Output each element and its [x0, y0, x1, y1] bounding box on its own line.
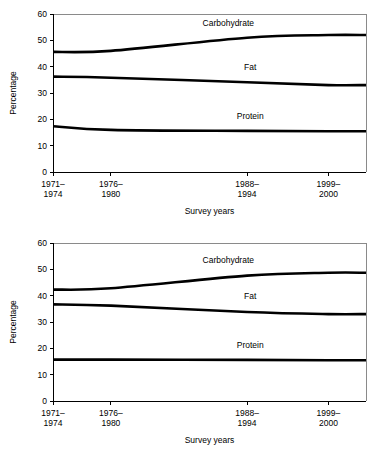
y-tick-label: 50 [38, 35, 48, 45]
x-tick-label: 1999– [317, 408, 341, 418]
x-tick-label: 2000 [319, 189, 338, 199]
x-tick-label: 1971– [41, 179, 65, 189]
series-line-protein [53, 360, 366, 361]
x-tick-label: 1980 [101, 418, 120, 428]
y-tick-label: 30 [38, 88, 48, 98]
x-tick-label: 1974 [44, 189, 63, 199]
x-tick-label: 1976– [99, 408, 123, 418]
y-tick-label: 20 [38, 343, 48, 353]
x-axis-title: Survey years [185, 435, 235, 445]
series-label-carbohydrate: Carbohydrate [203, 18, 255, 28]
x-tick-label: 1974 [44, 418, 63, 428]
series-line-fat [53, 77, 366, 86]
y-tick-label: 10 [38, 370, 48, 380]
y-tick-label: 50 [38, 264, 48, 274]
x-tick-label: 1994 [238, 418, 257, 428]
x-axis-title: Survey years [185, 206, 235, 216]
series-line-fat [53, 304, 366, 314]
series-line-carbohydrate [53, 273, 366, 290]
y-axis-title: Percentage [8, 71, 18, 115]
series-line-protein [53, 126, 366, 131]
y-tick-label: 20 [38, 114, 48, 124]
x-tick-label: 1988– [235, 179, 259, 189]
x-tick-label: 1994 [238, 189, 257, 199]
y-tick-label: 30 [38, 317, 48, 327]
series-label-protein: Protein [237, 340, 264, 350]
series-label-protein: Protein [237, 111, 264, 121]
series-label-carbohydrate: Carbohydrate [203, 255, 255, 265]
x-tick-label: 1971– [41, 408, 65, 418]
series-label-fat: Fat [244, 291, 257, 301]
y-tick-label: 10 [38, 141, 48, 151]
series-label-fat: Fat [244, 62, 257, 72]
chart-panel-top: 0102030405060Percentage1971–19741976–198… [0, 0, 381, 229]
y-tick-label: 60 [38, 9, 48, 19]
x-tick-label: 1980 [101, 189, 120, 199]
y-tick-label: 0 [42, 396, 47, 406]
y-axis-title: Percentage [8, 300, 18, 344]
plot-frame [53, 14, 366, 172]
y-tick-label: 40 [38, 291, 48, 301]
x-tick-label: 1976– [99, 179, 123, 189]
x-tick-label: 1999– [317, 179, 341, 189]
x-tick-label: 2000 [319, 418, 338, 428]
line-chart-bottom: 0102030405060Percentage1971–19741976–198… [0, 229, 381, 459]
series-line-carbohydrate [53, 35, 366, 52]
y-tick-label: 0 [42, 167, 47, 177]
line-chart-top: 0102030405060Percentage1971–19741976–198… [0, 0, 381, 229]
y-tick-label: 40 [38, 62, 48, 72]
plot-frame [53, 243, 366, 401]
chart-panel-bottom: 0102030405060Percentage1971–19741976–198… [0, 229, 381, 459]
x-tick-label: 1988– [235, 408, 259, 418]
y-tick-label: 60 [38, 238, 48, 248]
